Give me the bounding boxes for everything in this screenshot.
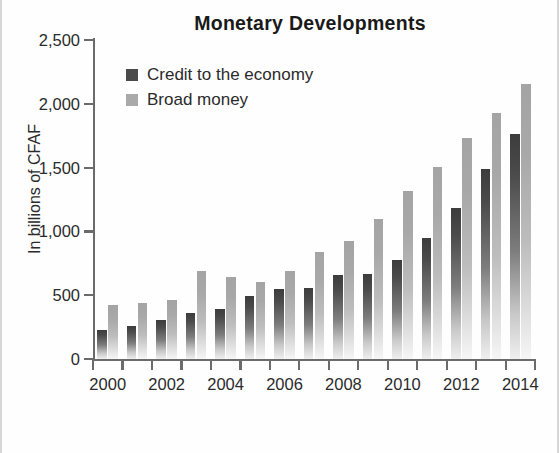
bar-credit-2010 (392, 260, 402, 359)
bar-credit-2004 (215, 309, 225, 359)
x-axis-tick (239, 361, 241, 370)
x-axis-tick (475, 361, 477, 370)
x-axis-tick (180, 361, 182, 370)
y-axis-tick-label: 1,500 (2, 158, 80, 177)
bar-broad-2013 (492, 113, 502, 359)
bar-credit-2001 (127, 326, 137, 359)
bar-credit-2011 (422, 238, 432, 359)
legend-swatch-broad-money-icon (126, 94, 138, 106)
bar-credit-2005 (245, 296, 255, 359)
x-axis-tick-label: 2006 (255, 375, 315, 394)
x-axis-tick (505, 361, 507, 370)
bar-broad-2005 (256, 282, 266, 359)
bar-credit-2009 (363, 274, 373, 359)
legend-item-credit: Credit to the economy (126, 62, 313, 87)
bar-credit-2002 (156, 320, 166, 359)
y-axis-tick-label: 500 (2, 286, 80, 305)
x-axis-tick (446, 361, 448, 370)
legend-item-broad-money: Broad money (126, 87, 313, 112)
x-axis-tick (387, 361, 389, 370)
x-axis-tick-label: 2012 (431, 375, 491, 394)
bar-broad-2006 (285, 271, 295, 359)
x-axis-tick (269, 361, 271, 370)
y-axis-tick-label: 2,500 (2, 31, 80, 50)
bar-credit-2007 (304, 288, 314, 359)
x-axis-tick-label: 2014 (490, 375, 550, 394)
x-axis-line (92, 359, 536, 361)
bar-credit-2006 (274, 289, 284, 359)
bar-broad-2010 (403, 191, 413, 359)
y-axis-tick-label: 1,000 (2, 222, 80, 241)
bar-credit-2008 (333, 275, 343, 359)
x-axis-tick (416, 361, 418, 370)
legend-label-broad-money: Broad money (147, 90, 248, 110)
chart-title: Monetary Developments (120, 12, 500, 35)
bar-credit-2000 (97, 330, 107, 359)
x-axis-tick (210, 361, 212, 370)
chart-legend: Credit to the economy Broad money (126, 62, 313, 112)
x-axis-tick (328, 361, 330, 370)
x-axis-tick (92, 361, 94, 370)
x-axis-tick (121, 361, 123, 370)
legend-label-credit: Credit to the economy (147, 65, 313, 85)
x-axis-tick (151, 361, 153, 370)
bar-broad-2009 (374, 219, 384, 359)
bar-credit-2014 (510, 134, 520, 359)
bar-broad-2000 (108, 305, 118, 359)
bar-credit-2013 (481, 169, 491, 359)
x-axis-tick (534, 361, 536, 370)
bar-broad-2008 (344, 241, 354, 359)
x-axis-tick-label: 2008 (313, 375, 373, 394)
bar-broad-2014 (521, 84, 531, 359)
bar-broad-2003 (197, 271, 207, 359)
bar-credit-2012 (451, 208, 461, 359)
x-axis-tick-label: 2010 (372, 375, 432, 394)
bar-broad-2002 (167, 300, 177, 359)
bar-broad-2001 (138, 303, 148, 359)
x-axis-tick-label: 2002 (137, 375, 197, 394)
chart-figure: Monetary Developments In billions of CFA… (0, 0, 559, 453)
bar-credit-2003 (186, 313, 196, 359)
bar-broad-2004 (226, 277, 236, 359)
x-axis-tick (298, 361, 300, 370)
x-axis-tick (357, 361, 359, 370)
legend-swatch-credit-icon (126, 69, 138, 81)
x-axis-tick-label: 2004 (196, 375, 256, 394)
bar-broad-2007 (315, 252, 325, 359)
y-axis-tick-label: 0 (2, 350, 80, 369)
y-axis-tick-label: 2,000 (2, 94, 80, 113)
bar-broad-2011 (433, 167, 443, 359)
x-axis-tick-label: 2000 (78, 375, 138, 394)
y-axis-label: In billions of CFAF (26, 94, 44, 284)
bar-broad-2012 (462, 138, 472, 359)
